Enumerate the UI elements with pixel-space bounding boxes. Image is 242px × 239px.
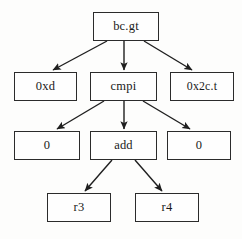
node-zero-right[interactable]: 0 (167, 131, 231, 160)
node-label: r3 (74, 201, 85, 214)
node-label: cmpi (111, 80, 137, 93)
node-label: 0 (196, 139, 202, 152)
edge-mid2-to-leaf_r4 (135, 160, 162, 191)
node-bc-gt[interactable]: bc.gt (93, 12, 159, 41)
edge-mid1-to-right2 (143, 101, 190, 129)
node-label: 0xd (36, 80, 55, 93)
node-zero-left[interactable]: 0 (14, 131, 80, 160)
node-label: 0x2c.t (187, 80, 217, 92)
node-r4[interactable]: r4 (135, 193, 199, 222)
edge-root-to-left1 (53, 41, 107, 70)
edge-root-to-right1 (144, 41, 192, 70)
node-label: r4 (162, 201, 173, 214)
edge-mid1-to-left2 (57, 101, 104, 129)
node-0xd[interactable]: 0xd (14, 72, 77, 101)
node-label: 0 (44, 139, 50, 152)
node-0x2c-t[interactable]: 0x2c.t (170, 72, 234, 101)
node-add[interactable]: add (90, 131, 157, 160)
expression-tree-diagram: bc.gt 0xd cmpi 0x2c.t 0 add 0 r3 r4 (0, 0, 242, 239)
node-r3[interactable]: r3 (47, 193, 111, 222)
edges-group (53, 41, 192, 191)
node-label: add (114, 139, 133, 152)
edge-mid2-to-leaf_r3 (85, 160, 112, 191)
node-label: bc.gt (113, 20, 139, 33)
node-cmpi[interactable]: cmpi (90, 72, 157, 101)
